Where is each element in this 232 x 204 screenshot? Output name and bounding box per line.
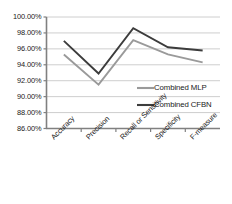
line-chart: 100.00%98.00%96.00%94.00%92.00%90.00%88.… [0, 0, 232, 204]
series-line-0 [64, 40, 203, 85]
axes [46, 17, 220, 129]
y-axis-tick-label: 96.00% [0, 44, 42, 53]
y-axis-tick-label: 98.00% [0, 28, 42, 37]
legend-label-1: Combined CFBN [154, 100, 212, 109]
legend-label-0: Combined MLP [154, 83, 207, 92]
y-axis-tick-label: 94.00% [0, 60, 42, 69]
y-axis-tick-label: 100.00% [0, 12, 42, 21]
y-axis-tick-label: 90.00% [0, 92, 42, 101]
series-line-1 [64, 28, 203, 73]
y-axis-tick-label: 92.00% [0, 76, 42, 85]
data-series [64, 28, 203, 85]
y-axis-tick-label: 88.00% [0, 108, 42, 117]
y-axis-tick-label: 86.00% [0, 124, 42, 133]
gridlines [44, 17, 221, 129]
